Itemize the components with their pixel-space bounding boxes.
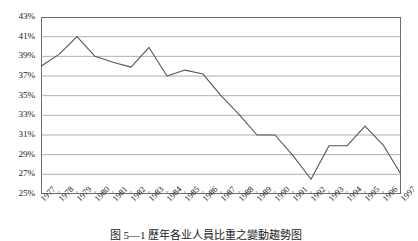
y-axis-tick-label: 27% — [18, 170, 35, 179]
gridlines — [41, 37, 401, 175]
y-axis-tick-label: 43% — [18, 12, 35, 21]
y-axis-labels: 43%41%39%37%35%33%31%29%27%25% — [0, 17, 38, 194]
y-axis-tick-label: 37% — [18, 71, 35, 80]
x-axis-tick-label: 1997 — [399, 185, 417, 203]
data-line-series-1 — [41, 37, 401, 180]
figure-caption: 图 5—1 歷年各业人員比重之變動趨勢图 — [0, 229, 412, 241]
data-line-group — [41, 37, 401, 180]
y-axis-tick-label: 41% — [18, 32, 35, 41]
y-axis-tick-label: 33% — [18, 111, 35, 120]
y-axis-tick-label: 25% — [18, 189, 35, 198]
x-axis-labels: 1977197819791980198119821983198419851986… — [41, 194, 401, 226]
y-axis-tick-label: 31% — [18, 130, 35, 139]
y-axis-tick-label: 39% — [18, 52, 35, 61]
line-chart-plot — [41, 17, 401, 194]
y-axis-tick-label: 35% — [18, 91, 35, 100]
y-axis-tick-label: 29% — [18, 150, 35, 159]
